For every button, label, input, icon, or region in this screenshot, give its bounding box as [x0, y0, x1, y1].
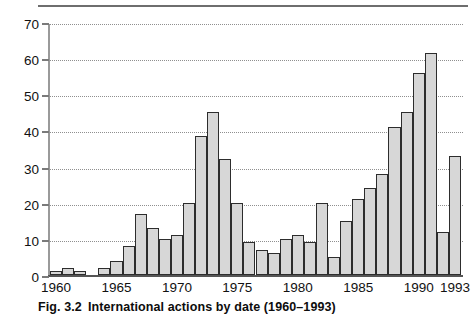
- bar-1965: [110, 261, 122, 275]
- bar-1986: [364, 188, 376, 275]
- bar-1977: [256, 250, 268, 275]
- x-tick-label-1990: 1990: [404, 280, 434, 295]
- bar-1989: [401, 112, 413, 275]
- y-tick-label-10: 10: [24, 233, 39, 248]
- bar-1966: [123, 246, 135, 275]
- bar-1984: [340, 221, 352, 275]
- y-tick-mark-20: [42, 204, 49, 206]
- y-tick-mark-60: [42, 59, 49, 61]
- y-tick-mark-0: [42, 276, 49, 278]
- y-tick-mark-40: [42, 131, 49, 133]
- y-tick-label-30: 30: [24, 161, 39, 176]
- y-tick-mark-30: [42, 168, 49, 170]
- bar-1978: [268, 253, 280, 275]
- y-tick-mark-70: [42, 23, 49, 25]
- y-tick-label-40: 40: [24, 125, 39, 140]
- bar-1973: [207, 112, 219, 275]
- bar-1976: [243, 242, 255, 275]
- bar-1983: [328, 257, 340, 275]
- bars-group: [50, 24, 463, 275]
- y-tick-label-0: 0: [31, 270, 39, 285]
- x-tick-label-1965: 1965: [101, 280, 131, 295]
- figure-caption: Fig. 3.2International actions by date (1…: [38, 300, 470, 314]
- x-tick-label-1970: 1970: [162, 280, 192, 295]
- y-tick-label-20: 20: [24, 197, 39, 212]
- bar-1974: [219, 159, 231, 275]
- bar-1961: [62, 268, 74, 275]
- bar-1993: [449, 156, 461, 275]
- bar-1987: [376, 174, 388, 275]
- bar-1992: [437, 232, 449, 275]
- y-tick-label-50: 50: [24, 89, 39, 104]
- y-tick-label-70: 70: [24, 17, 39, 32]
- top-divider-rule: [38, 5, 468, 7]
- x-tick-label-1975: 1975: [222, 280, 252, 295]
- bar-1969: [159, 239, 171, 275]
- bar-1960: [50, 271, 62, 275]
- bar-1970: [171, 235, 183, 275]
- bar-1979: [280, 239, 292, 275]
- x-tick-label-1985: 1985: [343, 280, 373, 295]
- bar-1962: [74, 271, 86, 275]
- bar-1982: [316, 203, 328, 275]
- x-tick-label-1993: 1993: [440, 280, 470, 295]
- y-tick-label-60: 60: [24, 53, 39, 68]
- caption-text: International actions by date (1960–1993…: [88, 300, 336, 314]
- plot-area: 010203040506070: [48, 24, 463, 277]
- bar-1991: [425, 53, 437, 275]
- bar-1971: [183, 203, 195, 275]
- figure-root: 010203040506070 196019651970197519801985…: [0, 0, 476, 323]
- bar-1972: [195, 136, 207, 275]
- bar-1964: [98, 268, 110, 275]
- bar-1967: [135, 214, 147, 275]
- bar-1981: [304, 242, 316, 275]
- x-axis-labels: 19601965197019751980198519901993: [48, 280, 463, 302]
- caption-figure-number: Fig. 3.2: [38, 300, 82, 314]
- x-tick-label-1980: 1980: [283, 280, 313, 295]
- bar-1980: [292, 235, 304, 275]
- bar-1988: [388, 127, 400, 275]
- bar-1990: [413, 73, 425, 275]
- bar-1975: [231, 203, 243, 275]
- y-tick-mark-50: [42, 95, 49, 97]
- bar-1985: [352, 199, 364, 275]
- x-tick-label-1960: 1960: [41, 280, 71, 295]
- x-axis-line: [48, 275, 463, 277]
- y-tick-mark-10: [42, 240, 49, 242]
- bar-1968: [147, 228, 159, 275]
